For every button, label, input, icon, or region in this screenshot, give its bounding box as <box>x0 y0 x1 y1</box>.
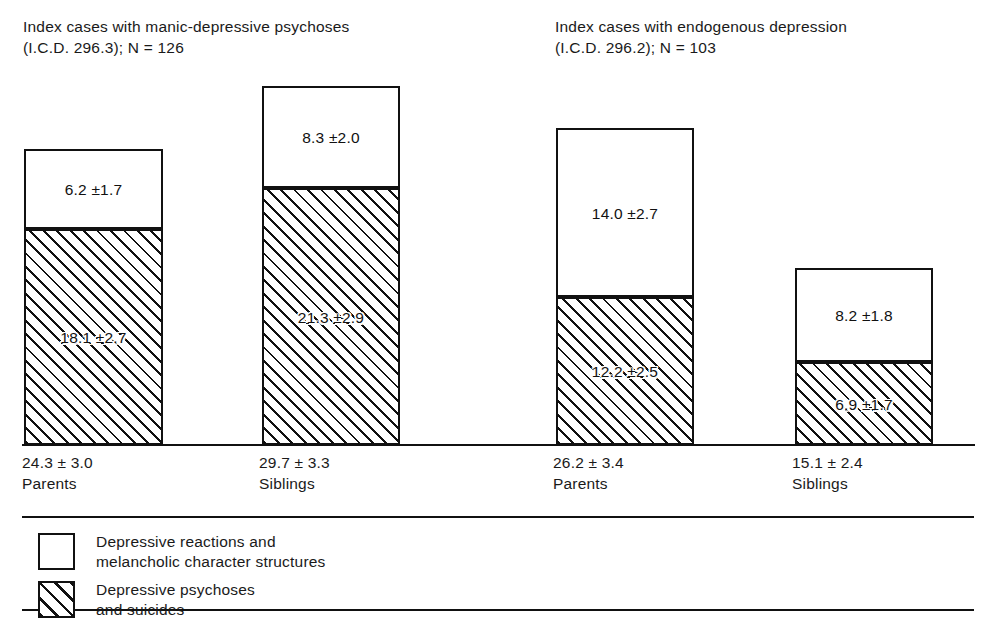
bar-segment-value-label: 14.0 ±2.7 <box>558 205 692 223</box>
bar-category-label: Siblings <box>792 473 863 494</box>
stacked-bar: 8.3 ±2.021.3 ±2.9 <box>262 86 400 445</box>
legend-item: Depressive reactions and melancholic cha… <box>38 532 326 572</box>
bar-segment-value-label: 18.1 ±2.7 <box>26 329 161 347</box>
legend-swatch-white-icon <box>38 533 75 570</box>
bar-segment-white: 8.3 ±2.0 <box>262 86 400 188</box>
bar-total-label: 26.2 ± 3.4 <box>553 452 624 473</box>
axis-tick-group: 26.2 ± 3.4Parents <box>553 452 624 494</box>
bar-total-label: 15.1 ± 2.4 <box>792 452 863 473</box>
legend-item: Depressive psychoses and suicides <box>38 580 255 620</box>
legend-item-label: Depressive reactions and melancholic cha… <box>96 532 326 572</box>
bar-segment-hatched: 18.1 ±2.7 <box>24 229 163 445</box>
bar-segment-hatched: 21.3 ±2.9 <box>262 188 400 445</box>
axis-tick-group: 24.3 ± 3.0Parents <box>22 452 93 494</box>
baseline-axis <box>22 444 975 446</box>
stacked-bar: 8.2 ±1.86.9 ±1.7 <box>795 268 933 445</box>
stacked-bar: 14.0 ±2.712.2 ±2.5 <box>556 128 694 445</box>
bar-segment-value-label: 12.2 ±2.5 <box>558 363 692 381</box>
bar-category-label: Parents <box>553 473 624 494</box>
stacked-bar: 6.2 ±1.718.1 ±2.7 <box>24 149 163 445</box>
bar-segment-hatched: 6.9 ±1.7 <box>795 362 933 445</box>
legend: Depressive reactions and melancholic cha… <box>22 516 974 611</box>
bar-segment-value-label: 6.2 ±1.7 <box>26 181 161 199</box>
legend-item-label: Depressive psychoses and suicides <box>96 580 255 620</box>
bar-category-label: Siblings <box>259 473 330 494</box>
bar-segment-value-label: 6.9 ±1.7 <box>797 396 931 414</box>
bar-segment-white: 14.0 ±2.7 <box>556 128 694 297</box>
bar-segment-white: 8.2 ±1.8 <box>795 268 933 362</box>
bar-segment-value-label: 21.3 ±2.9 <box>264 309 398 327</box>
bar-total-label: 29.7 ± 3.3 <box>259 452 330 473</box>
bar-segment-hatched: 12.2 ±2.5 <box>556 297 694 445</box>
axis-tick-group: 29.7 ± 3.3Siblings <box>259 452 330 494</box>
bar-segment-value-label: 8.3 ±2.0 <box>264 129 398 147</box>
bar-category-label: Parents <box>22 473 93 494</box>
chart-plot-area: 6.2 ±1.718.1 ±2.78.3 ±2.021.3 ±2.914.0 ±… <box>0 0 996 460</box>
bar-segment-value-label: 8.2 ±1.8 <box>797 307 931 325</box>
bar-total-label: 24.3 ± 3.0 <box>22 452 93 473</box>
legend-swatch-hatch-icon <box>38 581 75 618</box>
bar-segment-white: 6.2 ±1.7 <box>24 149 163 229</box>
axis-tick-group: 15.1 ± 2.4Siblings <box>792 452 863 494</box>
